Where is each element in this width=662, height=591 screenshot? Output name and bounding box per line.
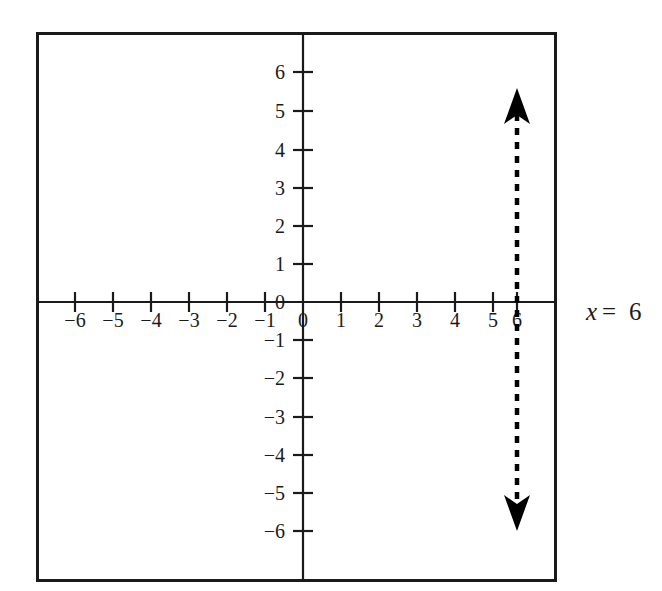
equation-value: 6 [629, 298, 642, 325]
equation-operator: = [602, 298, 616, 325]
x-tick-label: 5 [488, 309, 498, 331]
x-tick-label: 2 [374, 309, 384, 331]
x-tick-label: 4 [450, 309, 460, 331]
y-tick-label: −2 [264, 367, 285, 389]
equation-annotation: x = 6 [585, 298, 642, 325]
equation-variable: x [585, 298, 597, 325]
y-tick-label: −4 [264, 444, 285, 466]
x-tick-label: −3 [178, 309, 199, 331]
y-tick-label: −5 [264, 482, 285, 504]
x-tick-label: 1 [336, 309, 346, 331]
graph-figure: −6 −5 −4 −3 −2 −1 0 1 2 3 4 5 6 6 5 4 3 … [0, 0, 662, 591]
y-tick-label: −6 [264, 520, 285, 542]
y-tick-label: 2 [275, 215, 285, 237]
figure-frame [38, 34, 556, 581]
x-tick-label: −5 [102, 309, 123, 331]
x-tick-label: −1 [254, 309, 275, 331]
y-tick-label: −3 [264, 406, 285, 428]
y-tick-label: 3 [275, 177, 285, 199]
x-tick-label: −4 [140, 309, 161, 331]
y-tick-label: 5 [275, 100, 285, 122]
coordinate-plane-svg: −6 −5 −4 −3 −2 −1 0 1 2 3 4 5 6 6 5 4 3 … [0, 0, 662, 591]
x-tick-label-origin: 0 [298, 309, 308, 331]
y-tick-label: 1 [275, 253, 285, 275]
x-tick-label: −2 [216, 309, 237, 331]
y-tick-label-origin: 0 [275, 291, 285, 313]
y-tick-label: 6 [275, 61, 285, 83]
x-tick-label: −6 [64, 309, 85, 331]
y-tick-label: −1 [264, 329, 285, 351]
y-tick-label: 4 [275, 139, 285, 161]
x-tick-label: 3 [412, 309, 422, 331]
